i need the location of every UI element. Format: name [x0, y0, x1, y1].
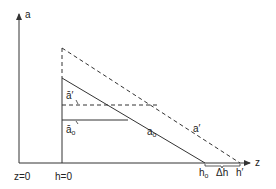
a-axis-label: a: [25, 9, 31, 20]
h-prime-label: h′: [236, 167, 244, 178]
abar-o-label: āo: [66, 124, 76, 136]
h-o-label: ho: [199, 167, 209, 179]
a-o-label: ao: [147, 126, 157, 138]
abar-prime-label: ā′: [66, 90, 74, 101]
abar-prime-pointer: [76, 100, 78, 104]
abar-o-pointer: [76, 121, 78, 124]
diagram-canvas: a z ā′ āo ao a′ z=0 h=0 ho Δh h′: [0, 0, 276, 189]
a-prime-line: [62, 48, 240, 163]
z-axis-label: z: [255, 157, 260, 168]
a-prime-label: a′: [193, 123, 201, 134]
z0-label: z=0: [14, 171, 31, 182]
delta-h-label: Δh: [216, 167, 228, 178]
h0-origin-label: h=0: [55, 171, 72, 182]
